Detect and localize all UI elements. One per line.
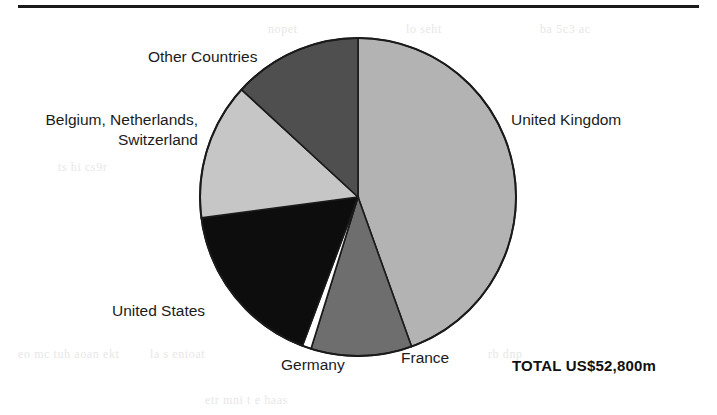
slice-label-united-kingdom: United Kingdom — [511, 110, 621, 130]
pie-chart: Other Countries Belgium, Netherlands, Sw… — [0, 0, 717, 415]
slice-label-germany: Germany — [281, 355, 345, 375]
pie-graphic — [198, 36, 518, 358]
slice-label-benelux-line2: Switzerland — [118, 131, 198, 148]
slice-label-other-countries: Other Countries — [148, 47, 257, 67]
slice-label-france: France — [401, 348, 449, 368]
slice-label-united-states: United States — [112, 301, 205, 321]
pie-slices — [200, 38, 516, 356]
slice-label-benelux: Belgium, Netherlands, Switzerland — [8, 110, 198, 150]
total-label: TOTAL US$52,800m — [512, 357, 656, 374]
slice-label-benelux-line1: Belgium, Netherlands, — [46, 111, 199, 128]
